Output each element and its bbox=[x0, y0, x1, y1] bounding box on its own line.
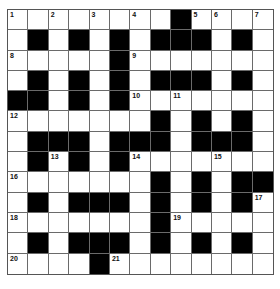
answer-cell[interactable] bbox=[49, 172, 69, 192]
answer-cell[interactable] bbox=[151, 10, 171, 30]
answer-cell[interactable] bbox=[130, 172, 150, 192]
answer-cell[interactable] bbox=[69, 254, 89, 274]
answer-cell[interactable]: 9 bbox=[130, 51, 150, 71]
answer-cell[interactable] bbox=[90, 172, 110, 192]
answer-cell[interactable] bbox=[49, 233, 69, 253]
answer-cell[interactable]: 5 bbox=[192, 10, 212, 30]
answer-cell[interactable]: 10 bbox=[130, 91, 150, 111]
answer-cell[interactable] bbox=[28, 10, 48, 30]
answer-cell[interactable]: 11 bbox=[171, 91, 191, 111]
answer-cell[interactable] bbox=[90, 51, 110, 71]
answer-cell[interactable] bbox=[192, 91, 212, 111]
answer-cell[interactable] bbox=[253, 213, 273, 233]
answer-cell[interactable] bbox=[151, 254, 171, 274]
answer-cell[interactable] bbox=[253, 254, 273, 274]
answer-cell[interactable] bbox=[253, 233, 273, 253]
answer-cell[interactable] bbox=[110, 213, 130, 233]
answer-cell[interactable]: 14 bbox=[130, 152, 150, 172]
answer-cell[interactable] bbox=[232, 91, 252, 111]
answer-cell[interactable] bbox=[28, 254, 48, 274]
answer-cell[interactable]: 7 bbox=[253, 10, 273, 30]
answer-cell[interactable] bbox=[192, 213, 212, 233]
answer-cell[interactable] bbox=[212, 193, 232, 213]
answer-cell[interactable] bbox=[212, 111, 232, 131]
answer-cell[interactable] bbox=[130, 30, 150, 50]
answer-cell[interactable]: 12 bbox=[8, 111, 28, 131]
answer-cell[interactable] bbox=[171, 193, 191, 213]
answer-cell[interactable]: 19 bbox=[171, 213, 191, 233]
answer-cell[interactable] bbox=[232, 10, 252, 30]
answer-cell[interactable] bbox=[49, 254, 69, 274]
answer-cell[interactable] bbox=[130, 111, 150, 131]
answer-cell[interactable] bbox=[28, 172, 48, 192]
answer-cell[interactable] bbox=[171, 233, 191, 253]
answer-cell[interactable]: 2 bbox=[49, 10, 69, 30]
answer-cell[interactable] bbox=[253, 132, 273, 152]
answer-cell[interactable] bbox=[212, 30, 232, 50]
answer-cell[interactable] bbox=[69, 213, 89, 233]
answer-cell[interactable] bbox=[49, 51, 69, 71]
answer-cell[interactable] bbox=[232, 51, 252, 71]
answer-cell[interactable]: 8 bbox=[8, 51, 28, 71]
answer-cell[interactable] bbox=[90, 152, 110, 172]
answer-cell[interactable] bbox=[8, 132, 28, 152]
answer-cell[interactable] bbox=[90, 111, 110, 131]
answer-cell[interactable] bbox=[28, 111, 48, 131]
answer-cell[interactable] bbox=[130, 71, 150, 91]
answer-cell[interactable] bbox=[212, 233, 232, 253]
answer-cell[interactable] bbox=[171, 111, 191, 131]
answer-cell[interactable] bbox=[192, 152, 212, 172]
answer-cell[interactable] bbox=[253, 152, 273, 172]
answer-cell[interactable]: 3 bbox=[90, 10, 110, 30]
answer-cell[interactable] bbox=[212, 71, 232, 91]
answer-cell[interactable] bbox=[130, 213, 150, 233]
answer-cell[interactable] bbox=[8, 193, 28, 213]
answer-cell[interactable] bbox=[171, 254, 191, 274]
answer-cell[interactable] bbox=[69, 111, 89, 131]
answer-cell[interactable] bbox=[192, 51, 212, 71]
answer-cell[interactable] bbox=[253, 71, 273, 91]
answer-cell[interactable] bbox=[212, 51, 232, 71]
answer-cell[interactable] bbox=[212, 213, 232, 233]
answer-cell[interactable] bbox=[110, 111, 130, 131]
answer-cell[interactable] bbox=[90, 30, 110, 50]
answer-cell[interactable]: 1 bbox=[8, 10, 28, 30]
answer-cell[interactable] bbox=[110, 10, 130, 30]
answer-cell[interactable] bbox=[171, 51, 191, 71]
answer-cell[interactable] bbox=[8, 30, 28, 50]
answer-cell[interactable]: 4 bbox=[130, 10, 150, 30]
answer-cell[interactable] bbox=[253, 51, 273, 71]
answer-cell[interactable] bbox=[171, 132, 191, 152]
answer-cell[interactable] bbox=[69, 51, 89, 71]
answer-cell[interactable] bbox=[151, 91, 171, 111]
answer-cell[interactable]: 18 bbox=[8, 213, 28, 233]
answer-cell[interactable] bbox=[151, 152, 171, 172]
answer-cell[interactable]: 21 bbox=[110, 254, 130, 274]
answer-cell[interactable] bbox=[8, 71, 28, 91]
answer-cell[interactable]: 16 bbox=[8, 172, 28, 192]
answer-cell[interactable] bbox=[49, 91, 69, 111]
answer-cell[interactable] bbox=[49, 111, 69, 131]
answer-cell[interactable]: 20 bbox=[8, 254, 28, 274]
answer-cell[interactable] bbox=[69, 10, 89, 30]
answer-cell[interactable] bbox=[253, 111, 273, 131]
answer-cell[interactable] bbox=[90, 213, 110, 233]
answer-cell[interactable] bbox=[232, 213, 252, 233]
answer-cell[interactable] bbox=[49, 30, 69, 50]
answer-cell[interactable]: 6 bbox=[212, 10, 232, 30]
answer-cell[interactable] bbox=[49, 193, 69, 213]
answer-cell[interactable]: 13 bbox=[49, 152, 69, 172]
answer-cell[interactable] bbox=[171, 152, 191, 172]
answer-cell[interactable] bbox=[130, 193, 150, 213]
answer-cell[interactable] bbox=[130, 254, 150, 274]
answer-cell[interactable]: 15 bbox=[212, 152, 232, 172]
answer-cell[interactable] bbox=[151, 51, 171, 71]
answer-cell[interactable] bbox=[212, 172, 232, 192]
answer-cell[interactable] bbox=[90, 132, 110, 152]
answer-cell[interactable]: 17 bbox=[253, 193, 273, 213]
answer-cell[interactable] bbox=[212, 254, 232, 274]
answer-cell[interactable] bbox=[90, 71, 110, 91]
answer-cell[interactable] bbox=[49, 71, 69, 91]
answer-cell[interactable] bbox=[49, 213, 69, 233]
answer-cell[interactable] bbox=[253, 91, 273, 111]
